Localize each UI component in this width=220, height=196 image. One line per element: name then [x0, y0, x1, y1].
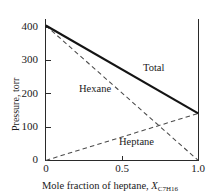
y-tick-label-400: 400	[12, 21, 38, 32]
y-axis-title-text: Pressure, torr	[10, 78, 21, 131]
vapor-pressure-chart: 400 300 200 100 0 0 0.5 1.0 Pressure, to…	[0, 0, 220, 196]
x-axis-title-prefix: Mole fraction of heptane,	[42, 180, 151, 191]
x-axis-subscript-16: 16	[171, 185, 178, 193]
x-tick-label-0: 0	[31, 163, 61, 174]
series-label-hexane: Hexane	[79, 84, 111, 95]
x-axis-title: Mole fraction of heptane, XC7H16	[0, 181, 220, 193]
series-line-total	[46, 26, 198, 114]
y-axis-title: Pressure, torr	[11, 78, 21, 131]
x-tick-label-0-5: 0.5	[107, 163, 137, 174]
series-label-heptane: Heptane	[119, 137, 154, 148]
x-tick-label-1-0: 1.0	[183, 163, 213, 174]
y-tick-label-300: 300	[12, 54, 38, 65]
series-label-total: Total	[143, 63, 164, 74]
